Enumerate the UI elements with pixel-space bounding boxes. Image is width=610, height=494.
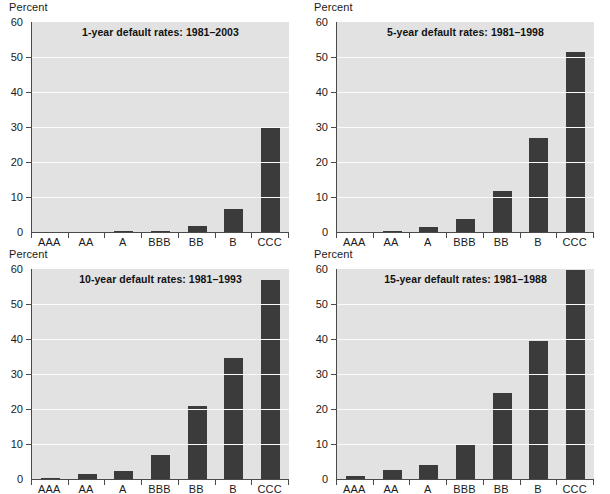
x-axis-tick-label: BBB [148, 483, 171, 494]
y-axis-tick-label: 40 [11, 86, 23, 98]
bar [224, 209, 243, 232]
gridline [32, 127, 289, 128]
bar [224, 358, 243, 479]
bar [188, 226, 207, 232]
chart-panel-5-year: Percent 0102030405060 5-year default rat… [305, 0, 610, 247]
x-axis-tick-label: BBB [453, 483, 476, 494]
gridline [337, 92, 594, 93]
y-axis-tick-label: 50 [316, 298, 328, 310]
bar [566, 52, 585, 232]
gridline [32, 162, 289, 163]
y-axis-tick-label: 10 [316, 438, 328, 450]
y-axis-ticks-1: 0102030405060 [0, 22, 31, 232]
y-axis-tick-label: 0 [17, 226, 23, 238]
bar [114, 471, 133, 479]
y-axis-tick-label: 40 [11, 333, 23, 345]
gridline [337, 374, 594, 375]
bar [188, 406, 207, 479]
y-axis-ticks-2: 0102030405060 [305, 22, 336, 232]
y-axis-tick-label: 10 [316, 191, 328, 203]
bar [383, 231, 402, 232]
y-axis-tick-label: 40 [316, 86, 328, 98]
x-axis-tick-label: CCC [562, 483, 586, 494]
gridline [337, 444, 594, 445]
y-axis-unit-label: Percent [9, 248, 48, 260]
bar [151, 455, 170, 479]
plot-area-3: 10-year default rates: 1981–1993 [31, 269, 289, 480]
chart-panel-1-year: Percent 0102030405060 1-year default rat… [0, 0, 305, 247]
y-axis-tick-label: 50 [11, 298, 23, 310]
bar [456, 445, 475, 479]
gridline [32, 197, 289, 198]
gridline [32, 57, 289, 58]
x-axis-tick-label: BB [494, 483, 509, 494]
gridline [32, 409, 289, 410]
plot-area-4: 15-year default rates: 1981–1988 [336, 269, 594, 480]
bar [41, 478, 60, 479]
chart-grid: Percent 0102030405060 1-year default rat… [0, 0, 610, 494]
gridline [32, 92, 289, 93]
x-axis-tick-label: AAA [343, 483, 366, 494]
y-axis-ticks-4: 0102030405060 [305, 269, 336, 479]
x-axis-tick-label: CCC [257, 483, 281, 494]
x-axis-tick-label: B [534, 483, 542, 494]
gridline [337, 409, 594, 410]
gridline [337, 162, 594, 163]
gridline [32, 374, 289, 375]
y-axis-tick-label: 20 [316, 403, 328, 415]
gridline [32, 339, 289, 340]
bar [419, 465, 438, 479]
y-axis-tick-label: 20 [11, 156, 23, 168]
y-axis-tick-label: 30 [11, 368, 23, 380]
bar [261, 280, 280, 479]
bar [456, 219, 475, 232]
x-axis-tick-label: AA [79, 483, 94, 494]
y-axis-tick-label: 50 [316, 51, 328, 63]
y-axis-tick-label: 60 [316, 16, 328, 28]
x-axis-labels-4: AAAAAABBBBBBCCC [336, 483, 594, 494]
gridline [337, 197, 594, 198]
bar [529, 138, 548, 232]
x-axis-tick-label: AAA [38, 483, 61, 494]
x-axis-labels-3: AAAAAABBBBBBCCC [31, 483, 289, 494]
bar [346, 476, 365, 480]
y-axis-tick-label: 10 [11, 191, 23, 203]
x-axis-tick-label: AA [384, 483, 399, 494]
plot-area-1: 1-year default rates: 1981–2003 [31, 22, 289, 233]
gridline [337, 304, 594, 305]
y-axis-tick-label: 20 [316, 156, 328, 168]
bar [78, 474, 97, 479]
gridline [337, 339, 594, 340]
gridline [32, 444, 289, 445]
bar [151, 231, 170, 232]
y-axis-unit-label: Percent [314, 1, 353, 13]
x-axis-tick-label: A [424, 483, 432, 494]
gridline [32, 304, 289, 305]
chart-panel-10-year: Percent 0102030405060 10-year default ra… [0, 247, 305, 494]
x-axis-tick-label: B [229, 483, 237, 494]
y-axis-tick-label: 0 [322, 473, 328, 485]
y-axis-tick-label: 30 [316, 368, 328, 380]
y-axis-tick-label: 0 [17, 473, 23, 485]
y-axis-tick-label: 30 [316, 121, 328, 133]
bar [383, 470, 402, 479]
y-axis-tick-label: 30 [11, 121, 23, 133]
gridline [337, 57, 594, 58]
y-axis-tick-label: 40 [316, 333, 328, 345]
y-axis-tick-label: 60 [11, 16, 23, 28]
y-axis-tick-label: 0 [322, 226, 328, 238]
y-axis-unit-label: Percent [9, 1, 48, 13]
y-axis-tick-label: 20 [11, 403, 23, 415]
x-axis-tick-label: A [119, 483, 127, 494]
y-axis-unit-label: Percent [314, 248, 353, 260]
gridline [337, 127, 594, 128]
bar [493, 393, 512, 479]
x-axis-tick-label: BB [189, 483, 204, 494]
y-axis-tick-label: 60 [11, 263, 23, 275]
y-axis-tick-label: 10 [11, 438, 23, 450]
bar [261, 128, 280, 232]
bar [114, 231, 133, 232]
y-axis-tick-label: 60 [316, 263, 328, 275]
y-axis-ticks-3: 0102030405060 [0, 269, 31, 479]
bar [419, 227, 438, 232]
